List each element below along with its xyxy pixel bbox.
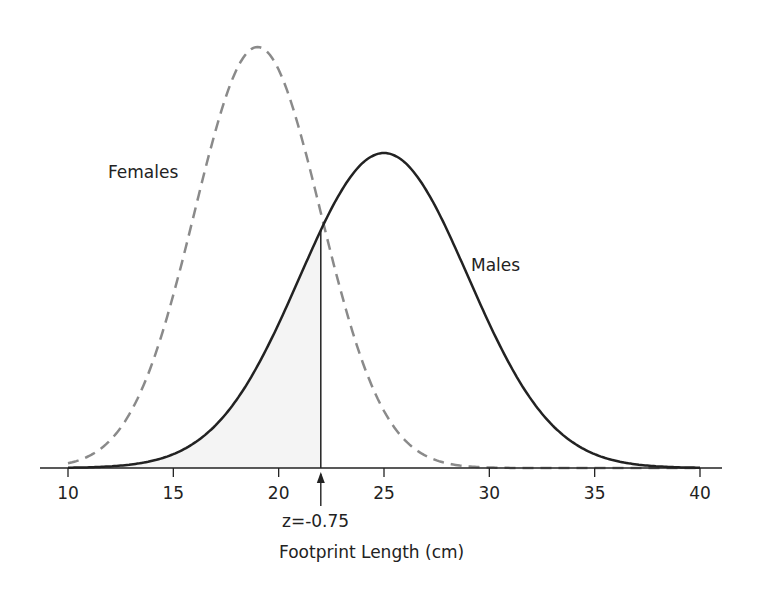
x-axis-title: Footprint Length (cm) — [279, 542, 464, 562]
shaded-area-males-below-z — [68, 230, 321, 468]
males-curve — [68, 153, 700, 468]
x-tick-label: 15 — [163, 483, 185, 503]
x-tick-label: 30 — [479, 483, 501, 503]
x-tick-label: 25 — [373, 483, 395, 503]
z-score-label: z=-0.75 — [282, 511, 349, 531]
males-label: Males — [471, 255, 520, 275]
x-axis-ticks: 10152025303540 — [57, 468, 711, 503]
x-tick-label: 40 — [689, 483, 711, 503]
z-arrow-icon — [317, 472, 325, 506]
x-tick-label: 35 — [584, 483, 606, 503]
females-curve — [68, 47, 700, 468]
x-tick-label: 10 — [57, 483, 79, 503]
x-tick-label: 20 — [268, 483, 290, 503]
normal-distribution-chart: 10152025303540 Females Males z=-0.75 Foo… — [0, 0, 760, 590]
females-label: Females — [108, 162, 178, 182]
